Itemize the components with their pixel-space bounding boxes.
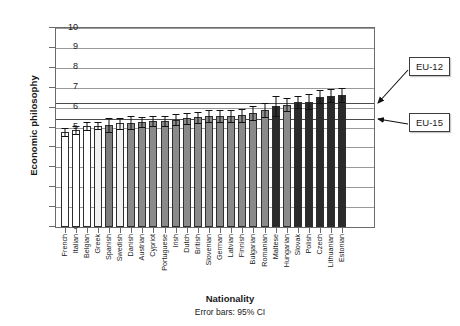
callout-eu15-label: EU-15 xyxy=(416,117,443,128)
callout-eu12: EU-12 xyxy=(409,57,450,76)
callout-eu12-label: EU-12 xyxy=(416,61,443,72)
callout-leader-lines xyxy=(0,0,460,326)
callout-eu15: EU-15 xyxy=(409,113,450,132)
chart-figure: Economic philosophy 012345678910 FrenchI… xyxy=(0,0,460,326)
